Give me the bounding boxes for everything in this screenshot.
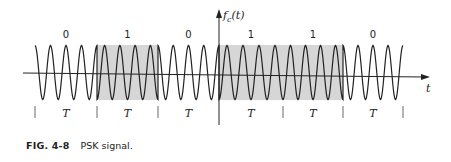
- period-label: T: [369, 107, 378, 120]
- bit-label: 0: [63, 29, 69, 40]
- x-axis-label: t: [426, 82, 431, 95]
- period-label: T: [124, 107, 133, 120]
- psk-signal-diagram: 0T1T0T1T1T0T fc(t) t: [0, 0, 451, 135]
- bit-label: 0: [370, 29, 376, 40]
- vertical-axis-arrow-icon: [216, 9, 222, 18]
- psk-waveform: [35, 46, 403, 100]
- bit-label: 1: [248, 29, 254, 40]
- figure-number: FIG. 4-8: [26, 140, 70, 151]
- bit-label: 1: [124, 29, 130, 40]
- shaded-bit-regions: [97, 45, 343, 100]
- period-label: T: [62, 107, 71, 120]
- time-axis-arrow-icon: [421, 74, 430, 80]
- bit-label: 1: [310, 29, 316, 40]
- period-label: T: [309, 107, 318, 120]
- bit-label: 0: [185, 29, 191, 40]
- period-label: T: [247, 107, 256, 120]
- figure-caption: FIG. 4-8 PSK signal.: [26, 140, 133, 151]
- period-label: T: [185, 107, 194, 120]
- y-axis-label: fc(t): [222, 9, 245, 24]
- figure-caption-text: PSK signal.: [81, 140, 133, 151]
